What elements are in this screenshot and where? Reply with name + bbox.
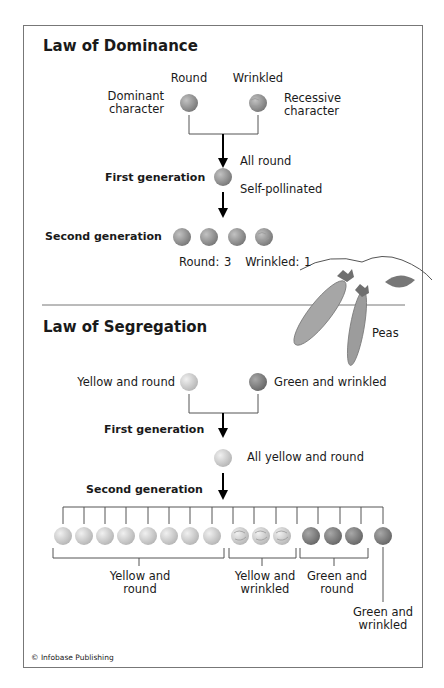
recessive-character-label: Recessive character: [284, 92, 341, 118]
dominant-character-label: Dominant character: [100, 90, 164, 116]
pea-green-wrinkled-parent: [249, 373, 267, 391]
peas-pod-icon: [287, 256, 432, 366]
self-pollinated-label: Self-pollinated: [240, 183, 322, 196]
round-label: Round: [171, 72, 207, 85]
f2-green-round-peas: [302, 527, 363, 545]
seg-first-generation-label: First generation: [104, 423, 204, 436]
pea-first-generation: [214, 168, 232, 186]
f2-green-wrinkled-pea: [374, 527, 392, 545]
first-generation-label: First generation: [105, 171, 205, 184]
peas-label: Peas: [372, 327, 399, 340]
dominance-title: Law of Dominance: [43, 37, 198, 55]
f2-yellow-round-peas: [54, 527, 221, 545]
all-round-label: All round: [240, 155, 291, 168]
group-yellow-round-label: Yellow and round: [110, 570, 171, 596]
second-generation-label: Second generation: [45, 230, 162, 243]
ratio-label: Round: 3 Wrinkled: 1: [179, 256, 311, 269]
f2-yellow-wrinkled-peas: [231, 527, 291, 545]
parent-yellow-round-label: Yellow and round: [40, 376, 175, 389]
wrinkled-label: Wrinkled: [233, 72, 283, 85]
group-green-wrinkled-label: Green and wrinkled: [353, 606, 413, 632]
segregation-title: Law of Segregation: [43, 318, 207, 336]
all-yellow-round-label: All yellow and round: [247, 451, 364, 464]
pea-yellow-round-f1: [214, 449, 232, 467]
diagram-graphics: [0, 0, 444, 688]
seg-second-generation-label: Second generation: [86, 483, 203, 496]
pea-yellow-round-parent: [180, 373, 198, 391]
pea-round-parent: [180, 94, 198, 112]
group-green-round-label: Green and round: [307, 570, 367, 596]
parent-green-wrinkled-label: Green and wrinkled: [274, 376, 387, 389]
group-yellow-wrinkled-label: Yellow and wrinkled: [235, 570, 296, 596]
pea-wrinkled-parent: [249, 94, 267, 112]
credit-label: © Infobase Publishing: [31, 651, 114, 664]
